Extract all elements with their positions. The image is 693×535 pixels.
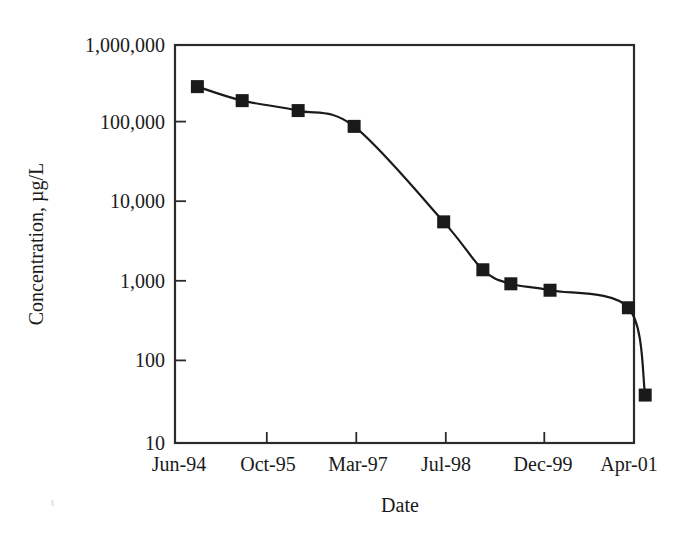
y-tick-label-100: 100 — [135, 349, 165, 371]
x-tick-label-oct-95: Oct-95 — [240, 453, 296, 475]
data-point-marker — [639, 389, 652, 402]
x-tick-label-jul-98: Jul-98 — [421, 453, 471, 475]
data-point-marker — [544, 284, 557, 297]
y-tick-label-1000000: 1,000,000 — [85, 34, 165, 56]
data-point-marker — [622, 301, 635, 314]
data-point-marker — [348, 120, 361, 133]
y-tick-labels: 1,000,000 100,000 10,000 1,000 100 10 — [85, 34, 165, 454]
data-point-marker — [236, 94, 249, 107]
data-point-marker — [292, 104, 305, 117]
concentration-vs-date-chart: 1,000,000 100,000 10,000 1,000 100 10 Ju… — [0, 0, 693, 535]
y-axis-title: Concentration, µg/L — [25, 163, 48, 326]
x-tick-label-apr-01: Apr-01 — [600, 453, 657, 476]
y-tick-label-100000: 100,000 — [100, 111, 165, 133]
data-point-marker — [191, 80, 204, 93]
x-tick-label-dec-99: Dec-99 — [514, 453, 573, 475]
data-point-marker — [504, 277, 517, 290]
chart-figure: 1,000,000 100,000 10,000 1,000 100 10 Ju… — [0, 0, 693, 535]
data-point-marker — [476, 263, 489, 276]
y-tick-label-10: 10 — [145, 432, 165, 454]
y-tick-label-1000: 1,000 — [120, 270, 165, 292]
x-tick-labels: Jun-94 Oct-95 Mar-97 Jul-98 Dec-99 Apr-0… — [152, 453, 658, 476]
x-tick-label-mar-97: Mar-97 — [328, 453, 388, 475]
data-point-marker — [437, 215, 450, 228]
y-tick-label-10000: 10,000 — [110, 190, 165, 212]
x-axis-title: Date — [381, 494, 419, 516]
x-tick-label-jun-94: Jun-94 — [152, 453, 206, 475]
